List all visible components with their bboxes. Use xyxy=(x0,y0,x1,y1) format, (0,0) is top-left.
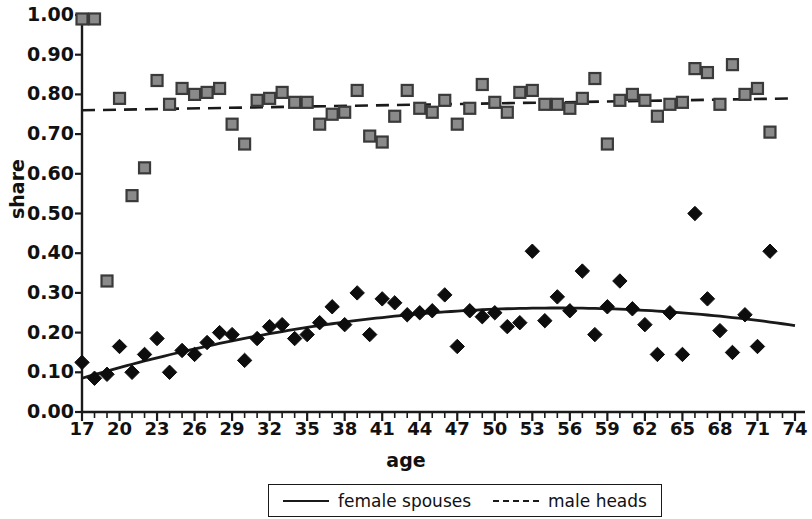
legend-label-male-heads: male heads xyxy=(548,491,647,511)
data-point-male-heads xyxy=(289,97,300,108)
data-point-female-spouses xyxy=(588,327,602,341)
data-point-female-spouses xyxy=(500,319,514,333)
x-axis-tick-label: 41 xyxy=(362,418,402,439)
data-point-female-spouses xyxy=(375,292,389,306)
data-point-female-spouses xyxy=(575,264,589,278)
legend-label-female-spouses: female spouses xyxy=(338,491,471,511)
x-axis-tick-label: 47 xyxy=(437,418,477,439)
data-point-male-heads xyxy=(514,87,525,98)
data-point-male-heads xyxy=(727,59,738,70)
data-point-female-spouses xyxy=(75,355,89,369)
x-axis-tick-label: 17 xyxy=(62,418,102,439)
data-point-male-heads xyxy=(214,83,225,94)
data-point-male-heads xyxy=(689,63,700,74)
data-point-male-heads xyxy=(339,107,350,118)
data-point-female-spouses xyxy=(525,244,539,258)
data-point-female-spouses xyxy=(175,343,189,357)
data-point-female-spouses xyxy=(763,244,777,258)
data-point-male-heads xyxy=(302,97,313,108)
data-point-female-spouses xyxy=(250,331,264,345)
data-point-male-heads xyxy=(527,85,538,96)
data-point-female-spouses xyxy=(563,304,577,318)
data-point-female-spouses xyxy=(613,274,627,288)
data-point-female-spouses xyxy=(237,353,251,367)
x-axis-tick-label: 68 xyxy=(700,418,740,439)
data-point-female-spouses xyxy=(125,365,139,379)
x-axis-tick-label: 38 xyxy=(325,418,365,439)
x-axis-tick-label: 65 xyxy=(662,418,702,439)
data-point-male-heads xyxy=(677,97,688,108)
data-point-female-spouses xyxy=(438,288,452,302)
data-point-male-heads xyxy=(352,85,363,96)
x-axis-tick-label: 74 xyxy=(775,418,812,439)
data-point-female-spouses xyxy=(600,300,614,314)
data-point-female-spouses xyxy=(450,339,464,353)
x-axis-tick-label: 23 xyxy=(137,418,177,439)
data-point-male-heads xyxy=(489,97,500,108)
data-point-male-heads xyxy=(414,103,425,114)
data-point-male-heads xyxy=(89,13,100,24)
data-point-female-spouses xyxy=(750,339,764,353)
x-axis-tick-label: 35 xyxy=(287,418,327,439)
data-point-male-heads xyxy=(264,93,275,104)
data-point-female-spouses xyxy=(337,317,351,331)
data-point-male-heads xyxy=(614,95,625,106)
data-point-female-spouses xyxy=(400,308,414,322)
x-axis-tick-label: 26 xyxy=(175,418,215,439)
data-point-male-heads xyxy=(127,190,138,201)
data-point-female-spouses xyxy=(725,345,739,359)
data-point-male-heads xyxy=(314,119,325,130)
data-point-male-heads xyxy=(439,95,450,106)
data-point-male-heads xyxy=(739,89,750,100)
data-point-female-spouses xyxy=(388,296,402,310)
data-point-female-spouses xyxy=(112,339,126,353)
data-point-male-heads xyxy=(277,87,288,98)
data-point-female-spouses xyxy=(425,304,439,318)
data-point-female-spouses xyxy=(350,286,364,300)
data-point-male-heads xyxy=(189,89,200,100)
data-point-male-heads xyxy=(764,127,775,138)
chart-figure: share 0.000.100.200.300.400.500.600.700.… xyxy=(0,0,812,519)
data-point-female-spouses xyxy=(475,310,489,324)
data-point-male-heads xyxy=(589,73,600,84)
data-point-male-heads xyxy=(164,99,175,110)
legend-item-male-heads: male heads xyxy=(493,491,647,511)
chart-legend: female spouses male heads xyxy=(268,484,662,517)
data-point-male-heads xyxy=(577,93,588,104)
data-point-female-spouses xyxy=(675,347,689,361)
data-point-male-heads xyxy=(452,119,463,130)
x-axis-tick-label: 62 xyxy=(625,418,665,439)
x-axis-label: age xyxy=(0,449,812,471)
data-point-male-heads xyxy=(177,83,188,94)
data-point-male-heads xyxy=(114,93,125,104)
data-point-female-spouses xyxy=(638,317,652,331)
legend-dashed-line-swatch xyxy=(493,500,539,502)
data-point-male-heads xyxy=(639,95,650,106)
data-point-male-heads xyxy=(252,95,263,106)
data-point-female-spouses xyxy=(325,300,339,314)
x-axis-tick-label: 56 xyxy=(550,418,590,439)
data-point-female-spouses xyxy=(413,306,427,320)
data-point-female-spouses xyxy=(363,327,377,341)
data-point-male-heads xyxy=(502,107,513,118)
data-point-male-heads xyxy=(664,99,675,110)
data-point-female-spouses xyxy=(162,365,176,379)
data-point-male-heads xyxy=(402,85,413,96)
data-point-male-heads xyxy=(202,87,213,98)
plot-area xyxy=(0,0,812,480)
data-point-male-heads xyxy=(427,107,438,118)
data-point-male-heads xyxy=(539,99,550,110)
data-point-male-heads xyxy=(327,109,338,120)
data-point-male-heads xyxy=(389,111,400,122)
x-axis-tick-label: 32 xyxy=(250,418,290,439)
data-point-male-heads xyxy=(364,131,375,142)
data-point-male-heads xyxy=(602,139,613,150)
data-point-female-spouses xyxy=(650,347,664,361)
data-point-female-spouses xyxy=(688,206,702,220)
data-point-male-heads xyxy=(377,137,388,148)
x-axis-tick-label: 59 xyxy=(587,418,627,439)
data-point-female-spouses xyxy=(287,331,301,345)
data-point-male-heads xyxy=(152,75,163,86)
data-point-male-heads xyxy=(564,103,575,114)
female-spouses-trend-line xyxy=(82,308,795,378)
